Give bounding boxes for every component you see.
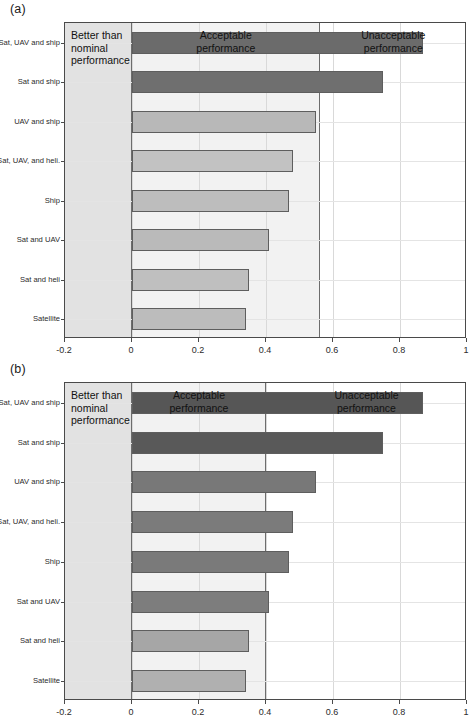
gridline-y-7 bbox=[65, 681, 465, 682]
y-tick bbox=[61, 681, 65, 682]
gridline-y-7 bbox=[65, 319, 465, 320]
x-tick bbox=[131, 700, 132, 704]
chart-panel-b: (b) Sat, UAV and shipSat and shipUAV and… bbox=[0, 360, 475, 722]
gridline-y-6 bbox=[65, 641, 465, 642]
region-better-than-nominal-b bbox=[65, 383, 132, 699]
bar bbox=[132, 190, 289, 212]
bar bbox=[132, 150, 293, 172]
panel-label-b: (b) bbox=[10, 362, 26, 376]
x-tick-label: 0 bbox=[128, 345, 133, 355]
gridline-y-6 bbox=[65, 280, 465, 281]
chart-panel-a: (a) Sat, UAV and shipSat and shipUAV and… bbox=[0, 0, 475, 360]
x-tick-label: 0.4 bbox=[259, 707, 272, 717]
region-label-better-a: Better than nominal performance bbox=[67, 29, 134, 67]
x-tick bbox=[198, 700, 199, 704]
bar bbox=[132, 432, 383, 454]
bar bbox=[132, 471, 316, 493]
x-tick bbox=[198, 338, 199, 342]
y-tick bbox=[61, 562, 65, 563]
region-unacceptable-a bbox=[320, 23, 465, 337]
x-tick-label: 0.2 bbox=[192, 707, 205, 717]
y-tick-label: Sat and ship bbox=[18, 437, 60, 446]
x-tick bbox=[64, 700, 65, 704]
y-tick bbox=[61, 240, 65, 241]
bar bbox=[132, 269, 249, 291]
y-tick bbox=[61, 641, 65, 642]
y-tick bbox=[61, 403, 65, 404]
y-tick bbox=[61, 201, 65, 202]
x-tick-label: -0.2 bbox=[56, 707, 72, 717]
x-tick-label: 0 bbox=[128, 707, 133, 717]
y-tick-label: Sat and heli bbox=[20, 636, 60, 645]
region-label-unacceptable-b: Unacceptable performance bbox=[266, 389, 467, 414]
y-tick-label: Sat, UAV and ship bbox=[0, 37, 60, 46]
x-tick bbox=[466, 338, 467, 342]
bar bbox=[132, 229, 269, 251]
y-tick-label: Sat, UAV, and heli. bbox=[0, 156, 60, 165]
plot-area-b: Better than nominal performance Acceptab… bbox=[64, 382, 466, 700]
x-tick-label: 0.4 bbox=[259, 345, 272, 355]
x-tick bbox=[399, 338, 400, 342]
y-tick bbox=[61, 602, 65, 603]
bar bbox=[132, 511, 293, 533]
y-tick bbox=[61, 522, 65, 523]
y-tick bbox=[61, 43, 65, 44]
region-label-better-b: Better than nominal performance bbox=[67, 389, 134, 427]
x-tick-label: 1 bbox=[463, 707, 468, 717]
y-tick bbox=[61, 319, 65, 320]
y-tick-label: Sat and UAV bbox=[17, 235, 60, 244]
bar bbox=[132, 308, 246, 330]
y-tick-label: Sat and heli bbox=[20, 274, 60, 283]
y-tick-label: Satellite bbox=[33, 314, 60, 323]
panel-label-a: (a) bbox=[10, 2, 26, 16]
bar bbox=[132, 630, 249, 652]
y-tick-label: Sat and UAV bbox=[17, 596, 60, 605]
bar bbox=[132, 670, 246, 692]
x-tick-label: 0.8 bbox=[393, 345, 406, 355]
x-tick bbox=[466, 700, 467, 704]
y-tick-label: Ship bbox=[45, 556, 60, 565]
y-tick bbox=[61, 161, 65, 162]
x-tick bbox=[265, 700, 266, 704]
gridline-x-0.8 bbox=[400, 23, 401, 337]
y-tick bbox=[61, 122, 65, 123]
y-tick-label: Ship bbox=[45, 195, 60, 204]
figure: (a) Sat, UAV and shipSat and shipUAV and… bbox=[0, 0, 475, 722]
x-tick bbox=[332, 338, 333, 342]
bar bbox=[132, 111, 316, 133]
region-label-acceptable-b: Acceptable performance bbox=[132, 389, 266, 414]
y-tick-label: Satellite bbox=[33, 676, 60, 685]
y-tick bbox=[61, 443, 65, 444]
gridline-x-0.6 bbox=[333, 23, 334, 337]
gridline-x-0.8 bbox=[400, 383, 401, 699]
y-tick-label: Sat, UAV, and heli. bbox=[0, 517, 60, 526]
bar bbox=[132, 71, 383, 93]
x-tick-label: -0.2 bbox=[56, 345, 72, 355]
region-label-unacceptable-a: Unacceptable performance bbox=[320, 29, 467, 54]
x-tick bbox=[265, 338, 266, 342]
x-tick bbox=[399, 700, 400, 704]
x-tick-label: 0.2 bbox=[192, 345, 205, 355]
x-tick-label: 0.6 bbox=[326, 707, 339, 717]
region-label-acceptable-a: Acceptable performance bbox=[132, 29, 320, 54]
bar bbox=[132, 551, 289, 573]
x-tick-label: 1 bbox=[463, 345, 468, 355]
x-tick-label: 0.8 bbox=[393, 707, 406, 717]
bar bbox=[132, 591, 269, 613]
gridline-x-0.4 bbox=[266, 23, 267, 337]
y-tick-label: Sat, UAV and ship bbox=[0, 397, 60, 406]
y-tick-label: UAV and ship bbox=[14, 116, 60, 125]
y-tick bbox=[61, 82, 65, 83]
y-tick-label: UAV and ship bbox=[14, 477, 60, 486]
x-tick bbox=[131, 338, 132, 342]
region-unacceptable-b bbox=[266, 383, 465, 699]
region-better-than-nominal-a bbox=[65, 23, 132, 337]
y-tick bbox=[61, 280, 65, 281]
x-tick bbox=[332, 700, 333, 704]
plot-area-a: Better than nominal performance Acceptab… bbox=[64, 22, 466, 338]
y-tick-label: Sat and ship bbox=[18, 77, 60, 86]
x-tick-label: 0.6 bbox=[326, 345, 339, 355]
x-tick bbox=[64, 338, 65, 342]
gridline-x-0.6 bbox=[333, 383, 334, 699]
y-tick bbox=[61, 482, 65, 483]
